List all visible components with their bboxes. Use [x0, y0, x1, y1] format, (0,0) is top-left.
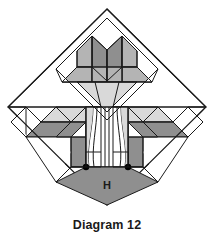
- diagram-figure: Quilt block piecing diagram: [0, 0, 214, 241]
- diagram-caption: Diagram 12: [0, 218, 214, 232]
- center-label-H: H: [103, 179, 111, 191]
- right-arm-leg-dark: [128, 137, 143, 167]
- left-arm-leg-dark: [71, 137, 86, 167]
- quilt-block-illustration: Quilt block piecing diagram: [0, 0, 214, 241]
